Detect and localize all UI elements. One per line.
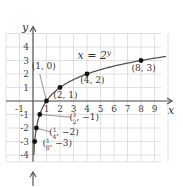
- y-tick-label: -2: [20, 123, 29, 133]
- point-label-rest: , −2): [56, 127, 78, 137]
- curve-label-superscript: y: [106, 49, 112, 57]
- x-tick-label: 7: [125, 104, 131, 114]
- chart-canvas: x y -11234567894321-1-2-3-4 x = 2y (18, …: [0, 0, 183, 187]
- y-tick-label: -4: [20, 150, 29, 160]
- data-point: [37, 112, 42, 117]
- axes: x y: [6, 21, 175, 186]
- point-label: (4, 2): [80, 75, 104, 85]
- label-leader-line: [40, 115, 71, 118]
- y-tick-label: -3: [20, 137, 29, 147]
- curve-label-base: x = 2: [78, 49, 107, 62]
- x-tick-label: 1: [44, 104, 50, 114]
- point-label: (18, −3): [42, 137, 72, 151]
- point-label: (2, 1): [53, 90, 77, 100]
- y-axis-label: y: [21, 21, 29, 34]
- curve-label: x = 2y: [78, 49, 112, 62]
- data-point: [34, 126, 39, 131]
- y-tick-label: 1: [23, 83, 29, 93]
- y-tick-label: 4: [23, 42, 29, 52]
- x-tick-label: 9: [152, 104, 158, 114]
- data-point: [32, 139, 37, 144]
- x-tick-label: 8: [138, 104, 144, 114]
- point-label: (1, 0): [32, 61, 56, 71]
- y-tick-label: -1: [20, 110, 29, 120]
- point-label: (8, 3): [132, 63, 156, 73]
- point-label-rest: , −1): [77, 112, 100, 122]
- data-point: [44, 99, 49, 104]
- y-tick-label: 2: [23, 69, 29, 79]
- y-tick-label: 3: [23, 56, 29, 66]
- x-axis-label: x: [168, 104, 175, 117]
- x-tick-label: 2: [57, 104, 63, 114]
- x-tick-label: 6: [111, 104, 117, 114]
- point-label: (12, −1): [69, 111, 99, 125]
